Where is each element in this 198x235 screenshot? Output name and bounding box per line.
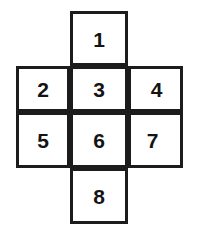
net-cell-label: 6 xyxy=(93,130,105,151)
net-cell-4: 4 xyxy=(128,66,183,112)
net-cell-7: 7 xyxy=(128,112,183,168)
net-cell-label: 8 xyxy=(93,186,105,207)
net-cell-label: 7 xyxy=(147,130,159,151)
net-cell-label: 2 xyxy=(37,79,49,100)
net-cell-label: 4 xyxy=(151,79,163,100)
cube-net-diagram: 1 2 3 4 5 6 7 8 xyxy=(0,0,198,235)
net-cell-label: 5 xyxy=(37,130,49,151)
net-cell-8: 8 xyxy=(70,168,128,224)
net-cell-label: 3 xyxy=(93,79,105,100)
net-cell-1: 1 xyxy=(70,11,128,66)
net-cell-5: 5 xyxy=(16,112,70,168)
net-cell-label: 1 xyxy=(93,29,105,50)
net-cell-3: 3 xyxy=(70,66,128,112)
net-cell-6: 6 xyxy=(70,112,128,168)
net-cell-2: 2 xyxy=(16,66,70,112)
